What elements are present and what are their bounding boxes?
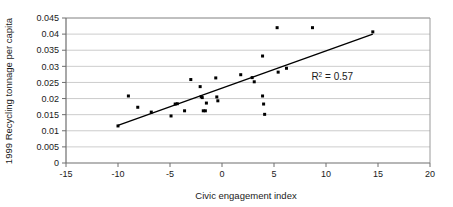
- data-point: [127, 94, 130, 97]
- data-point: [170, 114, 173, 117]
- data-point: [277, 71, 280, 74]
- x-tick-label-1: -10: [111, 169, 124, 179]
- data-point: [251, 76, 254, 79]
- data-point: [214, 76, 217, 79]
- y-tick-label-2: 0.01: [41, 126, 59, 136]
- data-point: [261, 94, 264, 97]
- data-point: [199, 85, 202, 88]
- data-point: [263, 113, 266, 116]
- annotation-prefix: R: [311, 71, 318, 82]
- y-tick-label-4: 0.02: [41, 94, 59, 104]
- data-point: [176, 102, 179, 105]
- chart-annotations: R2 = 0.57: [311, 71, 353, 83]
- y-tick-label-0: 0: [54, 158, 59, 168]
- data-point: [311, 26, 314, 29]
- chart-figure: -15-10-505101520 00.0050.010.0150.020.02…: [0, 0, 453, 207]
- y-tick-label-3: 0.015: [36, 110, 59, 120]
- x-tick-label-5: 10: [321, 169, 331, 179]
- x-tick-label-0: -15: [59, 169, 72, 179]
- x-tick-label-4: 5: [271, 169, 276, 179]
- data-point: [276, 26, 279, 29]
- y-tick-label-8: 0.04: [41, 29, 59, 39]
- data-point: [150, 111, 153, 114]
- annotation-suffix: = 0.57: [322, 71, 353, 82]
- data-point: [216, 99, 219, 102]
- x-tick-label-2: -5: [166, 169, 174, 179]
- data-point: [189, 78, 192, 81]
- x-tick-label-7: 20: [425, 169, 435, 179]
- data-point: [215, 95, 218, 98]
- data-point: [205, 102, 208, 105]
- annotation-r-squared: R2 = 0.57: [311, 71, 353, 83]
- x-axis-title: Civic engagement index: [195, 190, 297, 201]
- data-point: [239, 73, 242, 76]
- y-tick-label-5: 0.025: [36, 78, 59, 88]
- y-axis-title: 1999 Recycling tonnage per capita: [3, 17, 14, 164]
- data-point: [201, 96, 204, 99]
- y-tick-label-1: 0.005: [36, 142, 59, 152]
- x-tick-label-6: 15: [373, 169, 383, 179]
- x-tick-label-3: 0: [219, 169, 224, 179]
- scatter-chart: -15-10-505101520 00.0050.010.0150.020.02…: [0, 0, 453, 207]
- data-point: [253, 80, 256, 83]
- data-point: [204, 109, 207, 112]
- y-tick-label-6: 0.03: [41, 62, 59, 72]
- data-point: [183, 109, 186, 112]
- data-point: [285, 67, 288, 70]
- data-point: [262, 103, 265, 106]
- y-tick-label-9: 0.045: [36, 13, 59, 23]
- data-point: [117, 124, 120, 127]
- y-tick-label-7: 0.035: [36, 45, 59, 55]
- data-point: [136, 106, 139, 109]
- data-point: [261, 55, 264, 58]
- data-point: [371, 30, 374, 33]
